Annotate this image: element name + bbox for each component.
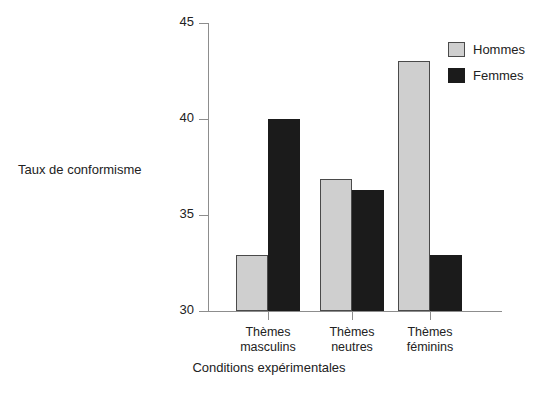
legend-item-hommes: Hommes — [448, 36, 525, 62]
x-category-label-3-line-1: Thèmes — [370, 325, 490, 340]
bar-femmes-themes-neutres — [352, 190, 384, 311]
legend-swatch-femmes-icon — [448, 68, 465, 83]
legend-swatch-hommes-icon — [448, 42, 465, 57]
legend-item-femmes: Femmes — [448, 62, 525, 88]
y-tick-label-45: 45 — [180, 14, 194, 29]
y-axis-line — [208, 23, 209, 312]
x-category-label-3-line-2: féminins — [370, 340, 490, 355]
x-category-label-3: Thèmes féminins — [370, 325, 490, 355]
x-tick-group-3 — [430, 312, 431, 320]
legend-label-femmes: Femmes — [473, 68, 524, 83]
x-tick-group-2 — [352, 312, 353, 320]
bar-chart-figure: Taux de conformisme 45 40 35 30 Thème — [0, 0, 538, 394]
y-tick-label-35: 35 — [180, 206, 194, 221]
x-axis-title: Conditions expérimentales — [0, 360, 538, 375]
bar-hommes-themes-neutres — [320, 179, 352, 312]
bar-hommes-themes-masculins — [236, 255, 268, 311]
y-tick-30: 30 — [199, 311, 208, 312]
bar-femmes-themes-masculins — [268, 119, 300, 311]
x-axis-line — [208, 311, 502, 312]
y-tick-label-40: 40 — [180, 110, 194, 125]
y-axis-title: Taux de conformisme — [18, 162, 142, 177]
bar-hommes-themes-feminins — [398, 61, 430, 311]
x-tick-group-1 — [268, 312, 269, 320]
y-tick-40: 40 — [199, 119, 208, 120]
bar-femmes-themes-feminins — [430, 255, 462, 311]
y-tick-35: 35 — [199, 215, 208, 216]
legend-label-hommes: Hommes — [473, 42, 525, 57]
y-tick-label-30: 30 — [180, 302, 194, 317]
legend: Hommes Femmes — [448, 36, 525, 88]
y-tick-45: 45 — [199, 23, 208, 24]
